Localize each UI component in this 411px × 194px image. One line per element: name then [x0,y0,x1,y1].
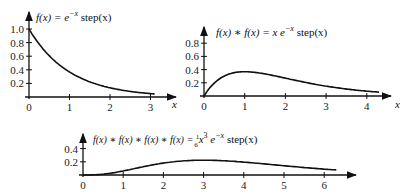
x-tick-label: 1 [67,101,73,113]
x-tick-label: 2 [161,179,167,191]
x-tick-label: 3 [323,100,329,112]
data-curve [204,72,379,96]
x-tick-label: 2 [107,101,113,113]
x-tick-label: 0 [80,179,86,191]
x-tick-label: 5 [281,179,287,191]
chart-title: f(x) ∗ f(x) = x e−x step(x) [216,24,328,39]
y-tick-label: 0.6 [10,50,24,62]
x-tick-label: 3 [148,101,154,113]
chart-title: f(x) = e−x step(x) [36,9,112,24]
figure: 01230.20.40.60.81.0xf(x) = e−x step(x) 0… [0,0,411,194]
x-axis-label: x [394,98,400,110]
y-tick-label: 0.8 [185,37,199,49]
x-tick-label: 0 [201,100,207,112]
y-tick-label: 0.2 [185,77,199,89]
y-tick-label: 0.2 [64,156,78,168]
chart-exp-decay: 01230.20.40.60.81.0xf(x) = e−x step(x) [10,9,177,113]
data-curve [83,160,336,175]
chart-convolution-4: 01234560.20.4f(x) ∗ f(x) ∗ f(x) ∗ f(x) =… [64,131,356,191]
y-tick-label: 0.4 [10,64,24,76]
y-tick-label: 0.8 [10,37,24,49]
x-axis-label: x [171,98,177,110]
x-tick-label: 1 [242,100,248,112]
x-tick-label: 3 [201,179,207,191]
x-tick-label: 4 [364,100,370,112]
y-tick-label: 1.0 [10,23,24,35]
x-tick-label: 2 [283,100,289,112]
x-tick-label: 4 [241,179,247,191]
y-tick-label: 0.6 [185,50,199,62]
chart-title: f(x) ∗ f(x) ∗ f(x) ∗ f(x) = 16x3 e−x ste… [93,131,258,149]
y-tick-label: 0.2 [10,77,24,89]
x-tick-label: 1 [120,179,126,191]
y-tick-label: 0.4 [64,143,78,155]
x-tick-label: 6 [321,179,327,191]
chart-convolution-2: 012340.20.40.60.8xf(x) ∗ f(x) = x e−x st… [185,24,400,112]
data-curve [29,29,155,94]
x-tick-label: 0 [26,101,32,113]
y-tick-label: 0.4 [185,64,199,76]
